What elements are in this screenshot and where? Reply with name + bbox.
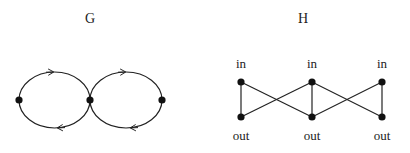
node-in-3	[378, 78, 385, 85]
graph-g-title: G	[85, 11, 95, 26]
label-in-2: in	[307, 56, 318, 71]
node-out-2	[308, 113, 315, 120]
node-in-1	[237, 78, 244, 85]
graph-h-title: H	[298, 11, 308, 26]
loop-left	[19, 72, 90, 128]
node-in-2	[308, 78, 315, 85]
label-in-1: in	[236, 56, 247, 71]
edges	[241, 82, 382, 117]
loop-right	[90, 72, 162, 128]
graph-g: G	[15, 11, 165, 128]
node-out-1	[237, 113, 244, 120]
node-out-3	[378, 113, 385, 120]
graph-h: H in in in out out out	[233, 11, 391, 143]
label-in-3: in	[377, 56, 388, 71]
diagram-canvas: G H in in in out out out	[0, 0, 410, 153]
node-g3	[158, 96, 165, 103]
label-out-1: out	[233, 128, 250, 143]
node-g1	[15, 96, 22, 103]
label-out-2: out	[304, 128, 321, 143]
node-g2	[86, 96, 93, 103]
label-out-3: out	[374, 128, 391, 143]
